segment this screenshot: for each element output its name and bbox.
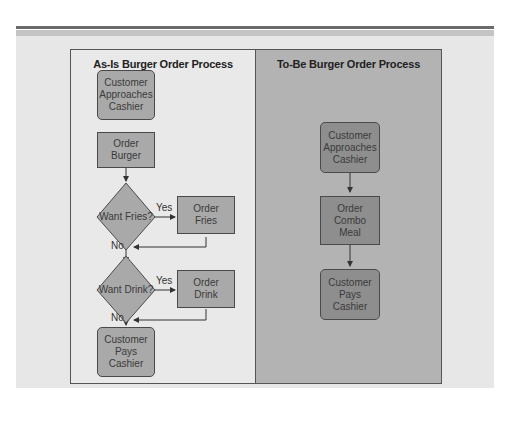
to-be-approach-node: Customer Approaches Cashier xyxy=(320,122,380,173)
no-label-drink: No xyxy=(111,312,124,323)
as-is-order-burger-node: Order Burger xyxy=(97,132,155,168)
order-fries-node: Order Fries xyxy=(177,196,235,234)
to-be-column: To-Be Burger Order Process Customer Appr… xyxy=(255,50,441,383)
want-fries-decision: Want Fries? xyxy=(97,210,155,224)
to-be-pay-node: Customer Pays Cashier xyxy=(320,269,380,320)
no-label-fries: No xyxy=(111,240,124,251)
as-is-column: As-Is Burger Order Process Customer Appr… xyxy=(71,50,255,383)
order-drink-node: Order Drink xyxy=(177,270,235,308)
process-comparison-frame: As-Is Burger Order Process Customer Appr… xyxy=(70,49,442,384)
order-combo-meal-node: Order Combo Meal xyxy=(320,196,380,245)
want-drink-decision: Want Drink? xyxy=(97,283,155,297)
yes-label-fries: Yes xyxy=(156,202,172,213)
as-is-pay-node: Customer Pays Cashier xyxy=(97,327,155,377)
yes-label-drink: Yes xyxy=(156,275,172,286)
as-is-approach-node: Customer Approaches Cashier xyxy=(97,70,155,120)
top-rule xyxy=(16,26,494,29)
